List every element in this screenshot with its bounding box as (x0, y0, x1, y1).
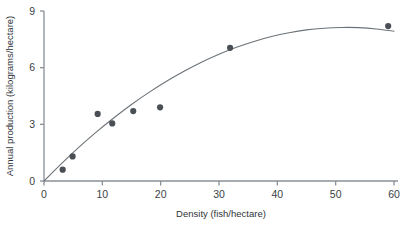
data-point (69, 153, 75, 159)
data-point (385, 23, 391, 29)
x-tick-label: 60 (388, 188, 400, 200)
x-tick-label: 20 (155, 188, 167, 200)
data-point (109, 120, 115, 126)
x-tick-label: 30 (213, 188, 225, 200)
x-tick-label: 10 (96, 188, 108, 200)
y-tick-label: 0 (29, 175, 35, 187)
data-point-group (60, 23, 392, 173)
y-axis-tick-labels: 0369 (29, 5, 35, 187)
y-tick-label: 9 (29, 5, 35, 17)
axis-lines (44, 11, 398, 181)
x-axis-tick-labels: 0102030405060 (41, 188, 400, 200)
x-axis-title: Density (fish/hectare) (176, 208, 266, 219)
data-point (157, 104, 163, 110)
x-tick-label: 40 (271, 188, 283, 200)
x-tick-label: 50 (330, 188, 342, 200)
x-tick-label: 0 (41, 188, 47, 200)
data-point (130, 108, 136, 114)
y-tick-label: 6 (29, 61, 35, 73)
x-axis-ticks (44, 181, 394, 186)
y-axis-title: Annual production (kilograms/hectare) (4, 16, 15, 177)
chart-container: 0369 0102030405060 Density (fish/hectare… (0, 0, 417, 235)
data-point (60, 167, 66, 173)
data-point (227, 45, 233, 51)
data-point (95, 111, 101, 117)
y-tick-label: 3 (29, 118, 35, 130)
scatter-plot: 0369 0102030405060 Density (fish/hectare… (0, 0, 417, 235)
fit-curve (44, 27, 394, 181)
